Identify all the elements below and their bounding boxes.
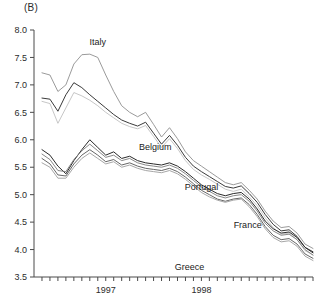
series-annotations-group: ItalyBelgiumPortugalFranceGreece — [90, 37, 262, 272]
series-label-belgium: Belgium — [139, 142, 172, 152]
chart-figure: (B) 3.54.04.55.05.56.06.57.07.58.0 19971… — [0, 0, 315, 298]
series-label-italy: Italy — [90, 37, 107, 47]
y-tick-label: 8.0 — [14, 25, 27, 35]
series-line-italy — [42, 54, 313, 248]
y-tick-label: 6.5 — [14, 108, 27, 118]
series-label-france: France — [234, 220, 262, 230]
x-axis-ticks — [42, 277, 313, 281]
y-tick-label: 5.0 — [14, 190, 27, 200]
series-line-portugal — [42, 144, 313, 255]
x-tick-label: 1997 — [96, 285, 116, 295]
y-tick-label: 4.0 — [14, 245, 27, 255]
y-tick-label: 7.5 — [14, 53, 27, 63]
y-tick-label: 7.0 — [14, 80, 27, 90]
panel-label: (B) — [24, 2, 38, 13]
series-label-greece: Greece — [175, 262, 205, 272]
series-line-belgium — [42, 140, 313, 253]
y-tick-label: 4.5 — [14, 217, 27, 227]
series-line-greece — [42, 153, 313, 261]
y-tick-label: 3.5 — [14, 272, 27, 282]
x-axis-tick-labels: 19971998 — [96, 285, 212, 295]
x-tick-label: 1998 — [191, 285, 211, 295]
y-tick-label: 6.0 — [14, 135, 27, 145]
line-chart-plot: 3.54.04.55.05.56.06.57.07.58.0 19971998 … — [0, 0, 315, 298]
data-series-group — [42, 54, 313, 260]
y-axis-ticks — [30, 30, 34, 277]
y-axis-tick-labels: 3.54.04.55.05.56.06.57.07.58.0 — [14, 25, 27, 282]
series-label-portugal: Portugal — [185, 182, 219, 192]
y-tick-label: 5.5 — [14, 162, 27, 172]
